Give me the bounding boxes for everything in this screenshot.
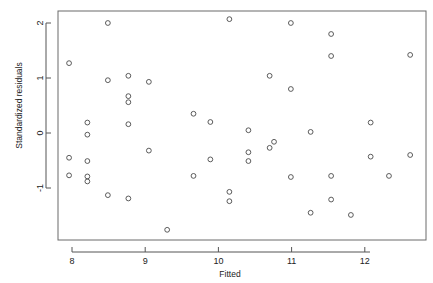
data-point	[408, 53, 413, 58]
x-tick-label: 10	[213, 256, 223, 266]
data-point	[105, 21, 110, 26]
data-point	[308, 130, 313, 135]
data-point	[146, 79, 151, 84]
data-point	[126, 196, 131, 201]
data-point	[267, 145, 272, 150]
data-point	[85, 120, 90, 125]
data-point	[126, 100, 131, 105]
data-point	[246, 150, 251, 155]
data-point	[368, 120, 373, 125]
data-point	[246, 128, 251, 133]
data-point	[208, 120, 213, 125]
data-point	[408, 153, 413, 158]
scatter-plot-figure: 89101112210-1FittedStandardized residual…	[0, 0, 433, 283]
data-point	[126, 122, 131, 127]
x-tick-label: 12	[360, 256, 370, 266]
plot-frame	[58, 11, 426, 240]
data-point	[329, 54, 334, 59]
x-tick-label: 9	[143, 256, 148, 266]
data-point	[288, 87, 293, 92]
data-point	[272, 139, 277, 144]
data-point	[85, 159, 90, 164]
data-point	[246, 159, 251, 164]
y-tick-label: 1	[35, 75, 45, 80]
y-tick-label: 2	[35, 20, 45, 25]
data-point	[308, 210, 313, 215]
data-point	[85, 174, 90, 179]
data-point	[227, 17, 232, 22]
data-point	[227, 199, 232, 204]
y-tick-label: -1	[35, 184, 45, 192]
x-tick-label: 8	[69, 256, 74, 266]
data-point	[146, 148, 151, 153]
data-point	[329, 174, 334, 179]
data-point	[191, 111, 196, 116]
data-point	[126, 73, 131, 78]
data-point	[67, 155, 72, 160]
data-point	[105, 78, 110, 83]
data-point	[126, 94, 131, 99]
y-axis-title: Standardized residuals	[14, 62, 24, 148]
data-point	[348, 213, 353, 218]
data-point	[208, 157, 213, 162]
data-point	[165, 227, 170, 232]
x-tick-label: 11	[287, 256, 296, 266]
data-point	[329, 197, 334, 202]
data-point	[67, 173, 72, 178]
data-point	[191, 174, 196, 179]
data-point	[387, 174, 392, 179]
data-point	[368, 154, 373, 159]
data-point	[288, 21, 293, 26]
data-point	[329, 32, 334, 37]
x-axis-title: Fitted	[219, 269, 241, 279]
data-point	[267, 73, 272, 78]
data-point	[288, 175, 293, 180]
data-point	[67, 61, 72, 66]
data-point	[85, 132, 90, 137]
data-point	[227, 189, 232, 194]
y-tick-label: 0	[35, 130, 45, 135]
chart-canvas: 89101112210-1FittedStandardized residual…	[0, 0, 433, 283]
data-point	[85, 179, 90, 184]
data-point	[105, 193, 110, 198]
